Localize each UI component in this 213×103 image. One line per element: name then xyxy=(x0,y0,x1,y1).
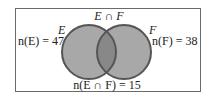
set-f-count-label: n(F) = 38 xyxy=(152,34,197,48)
venn-diagram: E n(E) = 47 E ∩ F F n(F) = 38 n(E ∩ F) =… xyxy=(0,0,213,103)
set-e-count-label: n(E) = 47 xyxy=(18,34,64,48)
intersection-label: E ∩ F xyxy=(93,9,124,23)
intersection-count-label: n(E ∩ F) = 15 xyxy=(73,78,140,92)
